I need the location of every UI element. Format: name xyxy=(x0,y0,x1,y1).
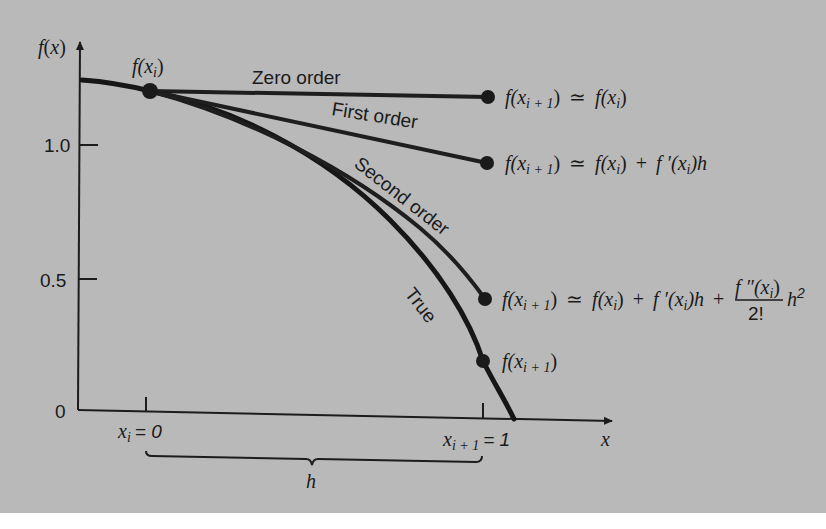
y-axis-label: f(x) xyxy=(38,36,66,59)
y-tick-label-05: 0.5 xyxy=(40,270,66,291)
first-order-label: First order xyxy=(330,98,419,132)
true-value-label: f(xi + 1) xyxy=(502,350,557,375)
first-order-equation: f(xi + 1) ≃ f(xi) + f ′(xi)h xyxy=(505,152,707,177)
x-tick-label-xi: xi= 0 xyxy=(117,420,162,445)
factorial-denominator: 2! xyxy=(748,303,764,324)
zero-order-label: Zero order xyxy=(252,67,341,88)
chart-canvas: f(x) 1.0 0.5 0 x xi= 0 xi + 1= 1 h xyxy=(0,0,826,529)
point-true xyxy=(476,354,490,368)
h-squared: h2 xyxy=(787,285,805,310)
step-size-label: h xyxy=(306,470,316,492)
y-tick-label-0: 0 xyxy=(55,401,66,422)
y-tick-label-1: 1.0 xyxy=(44,135,70,156)
point-f-xi xyxy=(142,83,158,99)
x-tick-label-xi1: xi + 1= 1 xyxy=(442,428,510,453)
zero-order-line xyxy=(150,91,488,97)
taylor-series-figure: f(x) 1.0 0.5 0 x xi= 0 xi + 1= 1 h xyxy=(0,0,826,529)
second-derivative-numerator: f ″(xi) xyxy=(735,276,780,301)
point-second-order xyxy=(478,292,492,306)
x-axis-label: x xyxy=(600,428,610,450)
y-axis xyxy=(78,42,80,410)
second-order-equation: f(xi + 1) ≃ f(xi) + f ′(xi)h + xyxy=(502,288,724,313)
f-xi-label: f(xi) xyxy=(132,55,164,80)
first-order-line xyxy=(150,91,487,163)
point-first-order xyxy=(480,156,494,170)
step-size-brace xyxy=(146,451,482,465)
zero-order-equation: f(xi + 1) ≃ f(xi) xyxy=(505,86,627,111)
true-curve xyxy=(82,80,514,419)
x-axis xyxy=(78,410,612,421)
true-label: True xyxy=(401,284,441,327)
point-zero-order xyxy=(481,90,495,104)
